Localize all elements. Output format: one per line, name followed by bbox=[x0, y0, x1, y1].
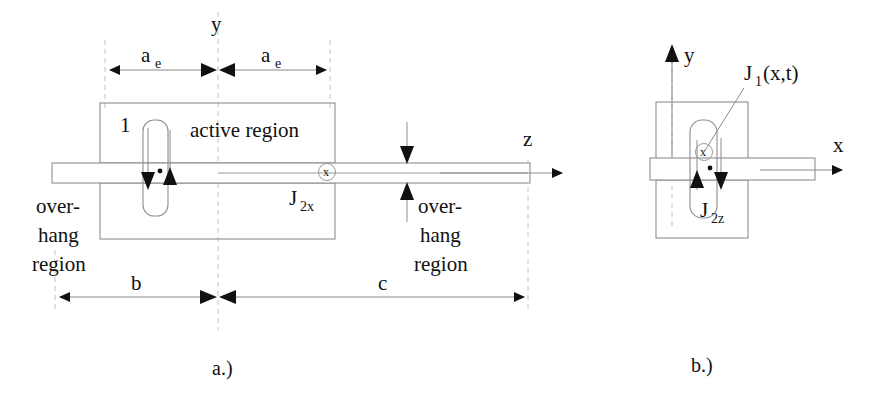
panel-b: y x x J 1 bbox=[650, 43, 844, 377]
current-j2z-sublabel: 2z bbox=[711, 211, 724, 226]
panel-b-active-stripe bbox=[650, 158, 815, 180]
panel-b-current-dot-marker bbox=[708, 166, 713, 171]
axis-into-page-label-b: x bbox=[700, 145, 706, 159]
current-j1-label: J bbox=[744, 61, 752, 85]
overhang-region-right: over- hang region bbox=[414, 194, 468, 276]
contact-number-label: 1 bbox=[120, 113, 131, 137]
panel-b-current-down-arrowhead bbox=[714, 172, 728, 190]
current-j2x-label: J bbox=[289, 186, 297, 210]
axis-into-page-label-a: x bbox=[323, 165, 329, 179]
dimension-ae-left-sublabel: e bbox=[155, 56, 161, 71]
panel-a: a e a e y z 1 bbox=[32, 12, 562, 380]
overhang-left-line3: region bbox=[32, 252, 86, 276]
current-j1-leader-line bbox=[704, 88, 744, 152]
current-j1-annotation: J 1 (x,t) bbox=[704, 61, 799, 152]
panel-b-axis-y-label: y bbox=[684, 43, 695, 67]
dimension-ae-left-label: a bbox=[141, 43, 151, 67]
current-j1-args: (x,t) bbox=[763, 61, 799, 85]
panel-b-axis-x-label: x bbox=[833, 133, 844, 157]
figure-canvas: a e a e y z 1 bbox=[0, 0, 891, 394]
overhang-right-line1: over- bbox=[418, 194, 462, 218]
current-j2z-label: J bbox=[700, 198, 708, 222]
panel-b-axis-y-arrowhead bbox=[665, 44, 679, 62]
caption-a: a.) bbox=[212, 357, 233, 380]
current-j1-sublabel: 1 bbox=[755, 74, 762, 89]
dimension-ae-right-sublabel: e bbox=[275, 56, 281, 71]
dimension-ae-inner-arrow-right bbox=[219, 63, 235, 77]
overhang-left-line2: hang bbox=[38, 223, 79, 247]
dimension-inner-arrow-left bbox=[200, 290, 217, 304]
current-j2x-sublabel: 2x bbox=[300, 199, 314, 214]
thickness-top-arrowhead bbox=[400, 146, 414, 164]
dimension-ae-right-label: a bbox=[261, 43, 271, 67]
panel-a-axis-z-label: z bbox=[523, 127, 532, 151]
panel-a-axis-y-label: y bbox=[211, 12, 222, 36]
overhang-right-line2: hang bbox=[420, 223, 461, 247]
current-j2z-group: J 2z bbox=[700, 198, 724, 226]
dimension-ae-inner-arrow-left bbox=[201, 63, 217, 77]
overhang-region-left: over- hang region bbox=[32, 194, 86, 276]
figure-root: a e a e y z 1 bbox=[0, 0, 891, 394]
dimension-inner-arrow-right bbox=[219, 290, 236, 304]
dimension-c-label: c bbox=[378, 271, 387, 295]
current-dot-marker bbox=[158, 169, 163, 174]
active-region-label: active region bbox=[190, 118, 300, 142]
overhang-right-line3: region bbox=[414, 252, 468, 276]
dimension-b-label: b bbox=[131, 271, 142, 295]
overhang-left-line1: over- bbox=[36, 194, 80, 218]
thickness-bottom-arrowhead bbox=[400, 182, 414, 200]
current-j2x-group: J 2x bbox=[289, 186, 314, 214]
caption-b: b.) bbox=[691, 354, 713, 377]
